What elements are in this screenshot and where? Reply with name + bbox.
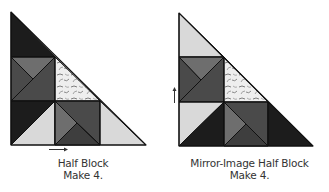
caption-title: Mirror-Image Half Block	[182, 157, 317, 169]
patch-r1c1-print	[55, 57, 100, 101]
half-block-diagram	[11, 12, 146, 145]
half-block-caption: Half Block Make 4.	[38, 157, 128, 181]
mirror-half-block-diagram	[179, 13, 313, 146]
caption-title: Half Block	[38, 157, 128, 169]
mirror-half-block-caption: Mirror-Image Half Block Make 4.	[182, 157, 317, 181]
arrow-right-icon	[49, 148, 68, 152]
caption-quantity: Make 4.	[182, 169, 317, 181]
arrow-up-icon	[173, 87, 177, 103]
caption-quantity: Make 4.	[38, 169, 128, 181]
